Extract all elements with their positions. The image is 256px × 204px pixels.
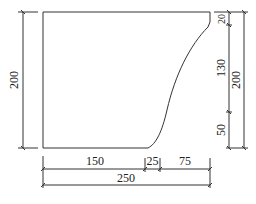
bottom-total-width-label: 250	[117, 171, 135, 185]
bottom-right-segment-label: 75	[179, 154, 191, 168]
left-height-label: 200	[7, 71, 21, 89]
right-bottom-segment-label: 50	[214, 124, 228, 136]
shape-outline	[43, 12, 210, 148]
right-top-segment-label: 20	[216, 14, 227, 24]
bottom-left-segment-label: 150	[86, 154, 104, 168]
right-total-height-label: 200	[229, 71, 243, 89]
diagram-canvas: 200 20 130 50 200 150 25 75 250	[0, 0, 256, 204]
bottom-middle-segment-label: 25	[147, 154, 159, 168]
right-middle-segment-label: 130	[214, 59, 228, 77]
